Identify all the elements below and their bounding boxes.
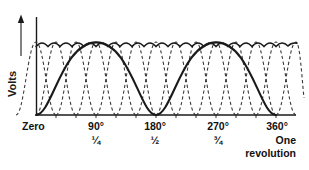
x-tick-label-180: 180°	[133, 120, 177, 132]
x-tick-label-270: 270°	[196, 120, 240, 132]
x-tick-label-90: 90°	[74, 120, 118, 132]
revolution-caption-line1: One	[196, 134, 296, 146]
x-tick-label-360: 360°	[255, 120, 299, 132]
y-axis-label: Volts	[6, 49, 18, 119]
envelope-ripple	[36, 43, 297, 47]
x-tick-sublabel-half: ½	[133, 134, 177, 146]
waveform-figure: Volts Zero 90° ¼ 180° ½ 270° ¾ 360° One …	[0, 0, 309, 170]
chart-axes	[36, 17, 296, 116]
x-tick-sublabel-quarter: ¼	[74, 134, 118, 146]
up-arrow-icon	[18, 15, 24, 57]
revolution-caption-line2: revolution	[176, 147, 296, 159]
x-tick-label-zero: Zero	[22, 120, 66, 132]
highlighted-sine-curve	[36, 42, 276, 115]
